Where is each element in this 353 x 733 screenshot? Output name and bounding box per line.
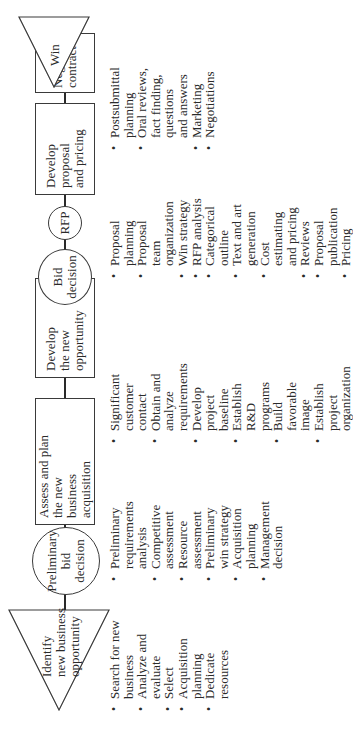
bullet-item: Search for new business bbox=[108, 620, 135, 711]
rfp-circle: RFP bbox=[48, 206, 82, 240]
bullet-item: Build favorable image bbox=[271, 363, 312, 443]
win-label: Win bbox=[48, 44, 62, 66]
bullet-item: Competitive assessment bbox=[149, 501, 176, 581]
bullet-item: Acquisition planning bbox=[230, 501, 257, 581]
bullet-item: Proposal publication bbox=[312, 198, 339, 278]
develop-proposal-box: Develop proposal and pricing bbox=[35, 103, 95, 195]
bullet-item: Management decision bbox=[258, 501, 285, 581]
bullet-item: Analyze and evaluate bbox=[135, 620, 162, 711]
bullet-item: Proposal planning bbox=[108, 198, 135, 278]
bullet-item: Cost estimating and pricing bbox=[258, 198, 299, 278]
bullet-item: Proposal team organization bbox=[135, 198, 176, 278]
develop-proposal-bullets: Proposal planning Proposal team organiza… bbox=[108, 198, 353, 278]
negotiate-contract-bullets: Postsubmittal planning Oral reviews, fac… bbox=[108, 67, 217, 150]
assess-and-plan-bullets: Preliminary requirements analysis Compet… bbox=[108, 501, 285, 581]
bullet-item: Pricing bbox=[339, 198, 353, 278]
preliminary-bid-decision-circle: Preliminary bid decision bbox=[32, 527, 100, 595]
bullet-item: Resource assessment bbox=[176, 501, 203, 581]
bullet-item: Marketing bbox=[190, 67, 204, 150]
bullet-item: Negotiations bbox=[203, 67, 217, 150]
identify-opportunity-label: Identify new business opportunity bbox=[40, 608, 82, 677]
bullet-item: RFP analysis bbox=[190, 198, 204, 278]
bullet-item: Establish project organization bbox=[312, 363, 353, 443]
bullet-item: Postsubmittal planning bbox=[108, 67, 135, 150]
bullet-item: Dedicate resources bbox=[203, 620, 230, 711]
bullet-item: Text and art generation bbox=[230, 198, 257, 278]
bullet-item: Reviews bbox=[298, 198, 312, 278]
bullet-item: Win strategy bbox=[176, 198, 190, 278]
bullet-item: Establish R&D programs bbox=[230, 363, 271, 443]
bullet-item: Significant customer contact bbox=[108, 363, 149, 443]
identify-opportunity-triangle: Identify new business opportunity bbox=[8, 609, 110, 711]
bullet-item: Oral reviews, fact finding, questions an… bbox=[135, 67, 189, 150]
identify-opportunity-bullets: Search for new business Analyze and eval… bbox=[108, 620, 230, 711]
develop-opportunity-bullets: Significant customer contact Obtain and … bbox=[108, 363, 353, 443]
bullet-item: Obtain and analyze requirements bbox=[149, 363, 190, 443]
bullet-item: Develop project baseline bbox=[190, 363, 231, 443]
win-triangle: Win bbox=[18, 16, 90, 88]
bid-decision-circle: Bid decision bbox=[38, 249, 92, 305]
bullet-item: Preliminary win strategy bbox=[203, 501, 230, 581]
bullet-item: Select bbox=[162, 620, 176, 711]
bullet-item: Preliminary requirements analysis bbox=[108, 501, 149, 581]
bullet-item: Acquisition planning bbox=[176, 620, 203, 711]
assess-and-plan-box: Assess and plan the new business acquisi… bbox=[35, 398, 95, 525]
bullet-item: Categorical outline bbox=[203, 198, 230, 278]
